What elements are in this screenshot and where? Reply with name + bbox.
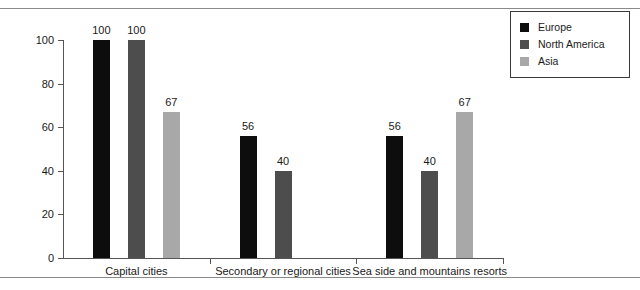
- legend-swatch-icon: [520, 23, 529, 32]
- page-rule-bottom: [0, 277, 640, 278]
- bar-value-label: 40: [277, 156, 289, 167]
- legend-swatch-icon: [520, 40, 529, 49]
- legend-item-europe[interactable]: Europe: [520, 19, 621, 36]
- y-axis-tick-label: 0: [48, 253, 54, 264]
- y-axis-tick-mark: [58, 127, 64, 128]
- x-axis-group-separator: [210, 258, 211, 264]
- y-axis-tick-label: 80: [42, 78, 54, 89]
- chart-legend: EuropeNorth AmericaAsia: [510, 11, 630, 78]
- x-axis-group-separator: [356, 258, 357, 264]
- y-axis-tick-mark: [58, 258, 64, 259]
- x-axis-category-label: Capital cities: [105, 266, 167, 277]
- y-axis-tick-label: 60: [42, 122, 54, 133]
- y-axis-tick-mark: [58, 84, 64, 85]
- bar-europe-1: 100: [93, 40, 110, 258]
- bar-value-label: 67: [459, 97, 471, 108]
- x-axis-category-label: Sea side and mountains resorts: [352, 266, 507, 277]
- bar-asia-3: 67: [456, 112, 473, 258]
- x-axis-category-label: Secondary or regional cities: [215, 266, 351, 277]
- legend-item-label: Asia: [538, 56, 558, 67]
- y-axis-tick-mark: [58, 40, 64, 41]
- y-axis-tick-label: 20: [42, 209, 54, 220]
- bar-asia-1: 67: [163, 112, 180, 258]
- legend-item-label: Europe: [538, 22, 572, 33]
- y-axis-tick-label: 100: [36, 35, 54, 46]
- bar-value-label: 56: [389, 121, 401, 132]
- chart-page: 020406080100 100100675640564067 Capital …: [0, 0, 640, 290]
- bar-value-label: 100: [92, 25, 110, 36]
- page-rule-top: [0, 8, 640, 9]
- bar-value-label: 40: [424, 156, 436, 167]
- bar-north-america-2: 40: [275, 171, 292, 258]
- y-axis-line: [63, 40, 64, 258]
- bar-europe-2: 56: [240, 136, 257, 258]
- y-axis-tick-label: 40: [42, 165, 54, 176]
- legend-item-label: North America: [538, 39, 605, 50]
- legend-swatch-icon: [520, 57, 529, 66]
- x-axis-group-separator: [503, 258, 504, 264]
- legend-item-north-america[interactable]: North America: [520, 36, 621, 53]
- bar-value-label: 56: [242, 121, 254, 132]
- y-axis-tick-mark: [58, 171, 64, 172]
- plot-area: 020406080100 100100675640564067 Capital …: [63, 40, 503, 258]
- y-axis-tick-mark: [58, 214, 64, 215]
- bar-north-america-1: 100: [128, 40, 145, 258]
- x-axis-line: [63, 258, 503, 259]
- legend-item-asia[interactable]: Asia: [520, 53, 621, 70]
- bar-value-label: 100: [127, 25, 145, 36]
- bar-north-america-3: 40: [421, 171, 438, 258]
- bar-value-label: 67: [165, 97, 177, 108]
- bar-europe-3: 56: [386, 136, 403, 258]
